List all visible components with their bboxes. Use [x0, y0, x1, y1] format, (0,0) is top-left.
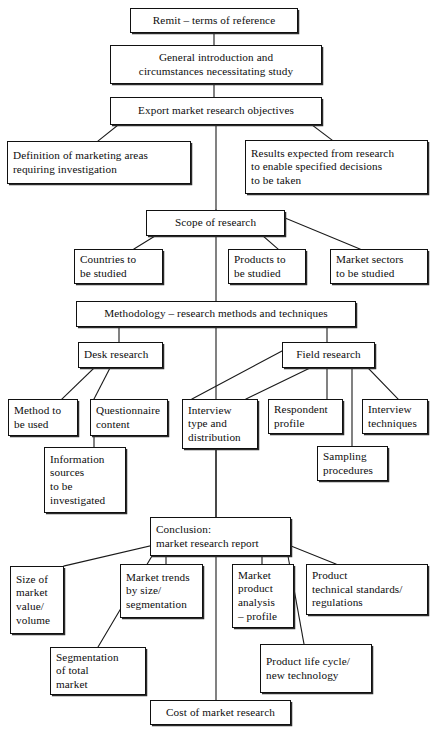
node-conclusion[interactable]: Conclusion: market research report — [150, 517, 291, 556]
node-sizeofmarket[interactable]: Size of market value/ volume — [10, 566, 64, 634]
node-label-definition: Definition of marketing areas requiring … — [8, 149, 190, 176]
node-label-interviewtech: Interview techniques — [363, 403, 427, 430]
node-markettrends[interactable]: Market trends by size/ segmentation — [120, 564, 203, 618]
connector-desk-to-questionnaire — [94, 368, 110, 399]
node-results[interactable]: Results expected from research to enable… — [245, 140, 428, 194]
node-label-questionnaire: Questionnaire content — [91, 404, 167, 431]
node-label-segmentation: Segmentation of total market — [51, 651, 145, 692]
connector-export-to-definition — [98, 125, 118, 141]
node-scope[interactable]: Scope of research — [146, 210, 285, 236]
node-marketsectors[interactable]: Market sectors to be studied — [330, 249, 428, 284]
node-label-scope: Scope of research — [147, 216, 284, 230]
node-marketproduct[interactable]: Market product analysis – profile — [232, 564, 294, 628]
node-products[interactable]: Products to be studied — [228, 249, 306, 284]
node-label-marketsectors: Market sectors to be studied — [331, 253, 427, 280]
node-export[interactable]: Export market research objectives — [110, 97, 322, 125]
connector-scope-to-countries — [134, 236, 155, 249]
node-label-interviewtype: Interview type and distribution — [183, 404, 257, 445]
node-remit[interactable]: Remit – terms of reference — [130, 8, 298, 33]
node-sampling[interactable]: Sampling procedures — [317, 446, 388, 481]
node-label-sizeofmarket: Size of market value/ volume — [11, 573, 63, 628]
node-label-producttech: Product technical standards/ regulations — [307, 569, 427, 610]
connector-conclusion-to-producttech — [291, 546, 336, 564]
node-countries[interactable]: Countries to be studied — [74, 249, 163, 284]
connector-field-to-interviewtype — [192, 351, 282, 399]
node-general[interactable]: General introduction and circumstances n… — [110, 45, 322, 84]
node-label-conclusion: Conclusion: market research report — [151, 523, 290, 550]
node-label-respondent: Respondent profile — [269, 403, 342, 430]
connector-scope-to-marketsectors — [285, 218, 360, 249]
node-label-desk: Desk research — [79, 348, 162, 362]
node-producttech[interactable]: Product technical standards/ regulations — [306, 564, 428, 615]
node-label-export: Export market research objectives — [111, 104, 321, 118]
node-information[interactable]: Information sources to be investigated — [44, 447, 126, 513]
connector-field-to-interviewtype2 — [246, 368, 310, 399]
node-label-general: General introduction and circumstances n… — [111, 51, 321, 78]
node-label-method: Method to be used — [9, 404, 77, 431]
node-cost[interactable]: Cost of market research — [150, 700, 291, 725]
node-label-products: Products to be studied — [229, 253, 305, 280]
node-label-remit: Remit – terms of reference — [131, 14, 297, 28]
node-interviewtech[interactable]: Interview techniques — [362, 399, 428, 434]
node-respondent[interactable]: Respondent profile — [268, 399, 343, 434]
connector-export-to-results — [312, 125, 332, 140]
node-label-sampling: Sampling procedures — [318, 450, 387, 477]
node-label-countries: Countries to be studied — [75, 253, 162, 280]
node-label-cost: Cost of market research — [151, 706, 290, 720]
node-desk[interactable]: Desk research — [78, 342, 163, 368]
node-interviewtype[interactable]: Interview type and distribution — [182, 399, 258, 449]
node-method[interactable]: Method to be used — [8, 399, 78, 436]
node-methodology[interactable]: Methodology – research methods and techn… — [76, 301, 356, 327]
node-segmentation[interactable]: Segmentation of total market — [50, 647, 146, 695]
node-questionnaire[interactable]: Questionnaire content — [90, 399, 168, 436]
node-label-marketproduct: Market product analysis – profile — [233, 569, 293, 624]
node-label-methodology: Methodology – research methods and techn… — [77, 307, 355, 321]
connector-desk-to-method — [62, 368, 94, 399]
flowchart-diagram: Remit – terms of referenceGeneral introd… — [0, 0, 432, 730]
node-label-information: Information sources to be investigated — [45, 453, 125, 508]
node-field[interactable]: Field research — [282, 342, 375, 368]
node-label-productlife: Product life cycle/ new technology — [261, 655, 371, 682]
connector-field-to-interviewtech — [368, 368, 398, 399]
node-productlife[interactable]: Product life cycle/ new technology — [260, 644, 372, 693]
node-label-results: Results expected from research to enable… — [246, 147, 427, 188]
node-definition[interactable]: Definition of marketing areas requiring … — [7, 141, 191, 184]
connector-conclusion-to-sizeofmarket — [64, 546, 150, 566]
node-label-markettrends: Market trends by size/ segmentation — [121, 571, 202, 612]
connector-scope-to-products — [263, 236, 278, 249]
node-label-field: Field research — [283, 348, 374, 362]
